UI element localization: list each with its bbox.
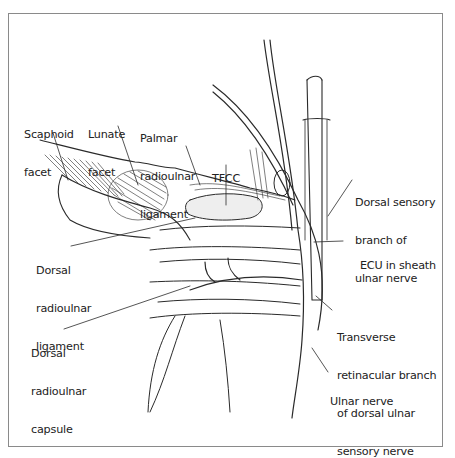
ecu-tendon (303, 76, 330, 300)
forearm-outlines (148, 316, 230, 412)
label-tfcc: TFCC (212, 148, 240, 198)
label-scaphoid-facet: Scaphoid facet (24, 104, 74, 192)
label-palmar-radioulnar-ligament: Palmar radioulnar ligament (140, 108, 195, 234)
nerves (190, 40, 322, 418)
label-lunate-facet: Lunate facet (88, 104, 125, 192)
dorsal-ligament-bands (150, 226, 300, 318)
label-ecu-in-sheath: ECU in sheath (360, 235, 436, 285)
label-ulnar-nerve: Ulnar nerve (330, 371, 393, 421)
label-dorsal-radioulnar-capsule: Dorsal radioulnar capsule (31, 323, 86, 449)
